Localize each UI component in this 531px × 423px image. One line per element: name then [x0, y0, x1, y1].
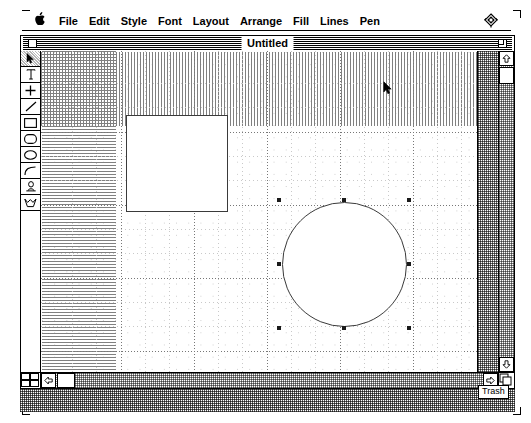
selection-handle-bottom-right[interactable]	[407, 326, 411, 330]
grid-line-major-v	[267, 51, 268, 372]
view-control-top-2[interactable]	[30, 373, 39, 380]
tool-line[interactable]	[21, 99, 40, 115]
tool-text[interactable]	[21, 67, 40, 83]
selection-handle-top-left[interactable]	[277, 198, 281, 202]
grid-line-minor-h	[41, 156, 498, 157]
application-switcher-icon[interactable]	[483, 13, 499, 29]
mac-desktop-screen: File Edit Style Font Layout Arrange Fill…	[0, 0, 531, 423]
menu-pen[interactable]: Pen	[360, 11, 380, 31]
shape-square[interactable]	[126, 115, 228, 212]
menu-bar-divider	[22, 30, 511, 31]
desktop-pattern-area	[20, 389, 515, 412]
drawing-canvas-viewport[interactable]	[41, 51, 498, 372]
grid-line-minor-h	[41, 326, 498, 327]
rounded-rectangle-icon	[24, 134, 37, 144]
apple-menu-icon[interactable]	[34, 12, 45, 30]
grid-line-minor-v	[96, 51, 97, 372]
trash-label[interactable]: Trash	[478, 385, 509, 399]
tool-polygon[interactable]	[21, 195, 40, 211]
menu-bar: File Edit Style Font Layout Arrange Fill…	[22, 11, 511, 31]
view-control-bottom-2[interactable]	[30, 380, 39, 387]
polygon-icon	[24, 198, 37, 208]
line-icon	[25, 101, 37, 112]
corner-tick-top-right	[513, 10, 521, 18]
grid-line-minor-h	[41, 302, 498, 303]
arrow-icon	[26, 53, 35, 64]
tool-freehand[interactable]	[21, 179, 40, 195]
grid-line-minor-h	[41, 229, 498, 230]
scroll-left-arrow[interactable]	[41, 373, 56, 388]
crosshair-icon	[25, 85, 36, 96]
arc-icon	[24, 166, 37, 176]
document-window: Untitled	[20, 35, 515, 389]
grid-line-minor-v	[461, 51, 462, 372]
menu-file[interactable]: File	[59, 11, 78, 31]
menu-layout[interactable]: Layout	[193, 11, 229, 31]
menu-fill[interactable]: Fill	[293, 11, 309, 31]
grid-line-minor-h	[41, 180, 498, 181]
grid-line-minor-v	[388, 51, 389, 372]
grid-line-minor-h	[41, 107, 498, 108]
grid-line-major-v	[121, 51, 122, 372]
menu-font[interactable]: Font	[158, 11, 182, 31]
grid-line-major-v	[48, 51, 49, 372]
grid-line-major-h	[41, 205, 498, 206]
selection-handle-top-center[interactable]	[342, 198, 346, 202]
oval-icon	[24, 150, 37, 160]
selection-handle-bottom-left[interactable]	[277, 326, 281, 330]
page-margin-area	[477, 51, 498, 372]
selection-handle-bottom-center[interactable]	[342, 326, 346, 330]
selection-handle-top-right[interactable]	[407, 198, 411, 202]
grid-line-major-h	[41, 132, 498, 133]
horizontal-scroll-thumb[interactable]	[57, 373, 75, 388]
menu-lines[interactable]: Lines	[320, 11, 349, 31]
grid-line-minor-v	[72, 51, 73, 372]
horizontal-scrollbar[interactable]	[21, 372, 498, 388]
scroll-down-arrow[interactable]	[499, 357, 514, 372]
window-title-bar[interactable]: Untitled	[21, 36, 514, 52]
scroll-up-arrow[interactable]	[499, 51, 514, 66]
view-control-top[interactable]	[21, 373, 30, 380]
menu-style[interactable]: Style	[121, 11, 147, 31]
grid-line-minor-h	[41, 83, 498, 84]
view-control-bottom[interactable]	[21, 380, 30, 387]
drawing-canvas[interactable]	[41, 51, 498, 372]
window-body	[21, 51, 514, 388]
selection-handle-middle-left[interactable]	[277, 262, 281, 266]
tool-crosshair[interactable]	[21, 83, 40, 99]
vertical-scrollbar[interactable]	[498, 51, 514, 372]
grid-line-major-v	[413, 51, 414, 372]
grid-line-minor-h	[41, 253, 498, 254]
selection-handle-middle-right[interactable]	[407, 262, 411, 266]
grid-line-major-h	[41, 278, 498, 279]
freehand-icon	[25, 181, 37, 192]
tool-arc[interactable]	[21, 163, 40, 179]
tool-palette	[21, 51, 41, 372]
rectangle-icon	[24, 118, 37, 128]
apple-logo-icon	[34, 12, 45, 25]
grid-line-major-h	[41, 59, 498, 60]
vertical-scroll-thumb[interactable]	[499, 67, 514, 84]
tool-pointer[interactable]	[21, 51, 40, 67]
menu-arrange[interactable]: Arrange	[240, 11, 282, 31]
grid-line-minor-v	[242, 51, 243, 372]
shape-circle[interactable]	[282, 202, 407, 327]
zoom-box[interactable]	[498, 39, 507, 48]
menu-edit[interactable]: Edit	[89, 11, 110, 31]
grid-line-major-h	[41, 351, 498, 352]
view-size-control[interactable]	[21, 372, 41, 388]
tool-rounded-rectangle[interactable]	[21, 131, 40, 147]
tool-oval[interactable]	[21, 147, 40, 163]
close-box[interactable]	[28, 39, 37, 48]
grid-line-minor-v	[437, 51, 438, 372]
text-icon	[26, 69, 36, 80]
grid-line-minor-v	[291, 51, 292, 372]
window-title: Untitled	[241, 36, 294, 51]
tool-rectangle[interactable]	[21, 115, 40, 131]
tool-palette-filler	[21, 211, 40, 372]
